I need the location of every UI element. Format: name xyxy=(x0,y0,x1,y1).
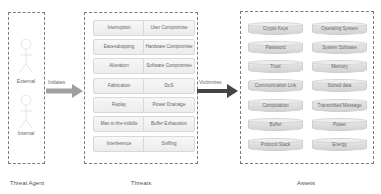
threat-interruption: Interruption xyxy=(93,20,145,36)
asset-communication-link: Communication Link xyxy=(248,79,303,93)
threat-interference: Interference xyxy=(93,136,145,152)
threat-sniffing: Sniffing xyxy=(143,136,195,152)
assets-caption: Assets xyxy=(281,180,331,186)
threat-power-drainage: Power Drainage xyxy=(143,97,195,113)
asset-buffer: Buffer xyxy=(248,118,303,132)
asset-crypto-keys: Crypto Keys xyxy=(248,22,303,36)
asset-power: Power xyxy=(312,118,367,132)
asset-memory: Memory xyxy=(312,60,367,74)
threat-eavesdropping: Eavesdropping xyxy=(93,39,145,55)
asset-operating-system: Operating System xyxy=(312,22,367,36)
threat-dos: DoS xyxy=(143,78,195,94)
threat-agent-caption: Threat Agent xyxy=(2,180,52,186)
threat-buffer-exhaustion: Buffer Exhaustion xyxy=(143,116,195,132)
external-agent-label: External xyxy=(6,78,46,84)
threat-alteration: Alteration xyxy=(93,58,145,74)
asset-password: Password xyxy=(248,41,303,55)
threat-replay: Replay xyxy=(93,97,145,113)
internal-agent-label: Internal xyxy=(6,130,46,136)
victimizes-arrow-icon xyxy=(197,84,239,98)
threat-hardware-compromise: Hardware Compromise xyxy=(143,39,195,55)
asset-transmitted-message: Transmitted Message xyxy=(312,99,367,113)
asset-energy: Energy xyxy=(312,138,367,152)
asset-protocol-stack: Protocol Stack xyxy=(248,138,303,152)
asset-trust: Trust xyxy=(248,60,303,74)
threat-fabrication: Fabrication xyxy=(93,78,145,94)
threat-agent-box xyxy=(8,12,45,164)
threat-software-compromise: Software Compromise xyxy=(143,58,195,74)
internal-agent-figure-icon xyxy=(16,94,36,134)
threat-man-in-the-middle: Man-in-the-middle xyxy=(93,116,145,132)
asset-stored-data: Stored data xyxy=(312,79,367,93)
threats-caption: Threats xyxy=(116,180,166,186)
asset-system-software: System Software xyxy=(312,41,367,55)
initiates-arrow-icon xyxy=(46,84,84,98)
threat-user-compromise: User Compromise xyxy=(143,20,195,36)
external-agent-figure-icon xyxy=(16,38,36,78)
asset-computation: Computation xyxy=(248,99,303,113)
